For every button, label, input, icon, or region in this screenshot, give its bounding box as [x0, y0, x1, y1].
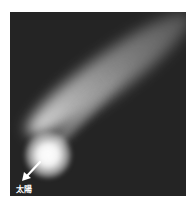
sun-direction-label: 太陽 — [16, 183, 32, 194]
comet-image: 太陽 — [10, 12, 186, 196]
arrow-down-left-icon — [20, 160, 44, 182]
comet-dust-tail — [16, 12, 186, 149]
